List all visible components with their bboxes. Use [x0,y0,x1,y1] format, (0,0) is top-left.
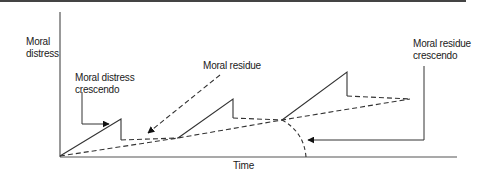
moral-distress-diagram [0,0,486,181]
distress-episode-3 [282,72,347,120]
residue-plateau-1 [121,138,178,140]
distress-episode-1 [60,119,121,156]
residue-plateau-2 [233,118,282,120]
residue-angle-arc [282,120,306,157]
moral-distress-crescendo-label: Moral distress crescendo [75,72,134,96]
moral-residue-crescendo-label: Moral residue crescendo [413,38,471,62]
x-axis-label: Time [233,160,254,172]
moral-residue-arrow [148,75,220,133]
distress-episode-2 [178,99,233,138]
distress-crescendo-arrow [82,92,109,124]
residue-plateau-3 [347,96,410,99]
residue-crescendo-arrow [308,66,424,140]
moral-residue-label: Moral residue [203,60,261,72]
residue-baseline-dashed [60,99,410,156]
y-axis-label: Moral distress [26,36,59,60]
